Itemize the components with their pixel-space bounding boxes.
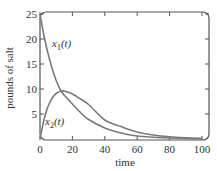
x-tick-label: 40 <box>99 143 111 155</box>
y-tick-label: 25 <box>26 8 38 20</box>
y-tick-label: 5 <box>32 108 38 120</box>
salt-chart: 020406080100510152025 x1(t)x2(t) time po… <box>0 0 217 171</box>
curve-x1t <box>40 14 202 139</box>
y-tick-label: 10 <box>26 83 38 95</box>
curve-label-x2t: x2(t) <box>44 115 65 130</box>
curves <box>40 14 202 139</box>
plot-border <box>40 12 209 140</box>
y-tick-label: 15 <box>26 58 38 70</box>
curve-x2t <box>40 91 202 139</box>
x-axis-label: time <box>115 156 135 168</box>
x-tick-label: 100 <box>194 143 211 155</box>
curve-label-x1t: x1(t) <box>51 37 72 52</box>
y-tick-label: 20 <box>26 33 38 45</box>
plot-frame <box>40 12 209 140</box>
x-tick-label: 60 <box>132 143 144 155</box>
y-axis-label: pounds of salt <box>3 47 15 109</box>
x-tick-label: 80 <box>164 143 176 155</box>
x-tick-label: 0 <box>37 143 43 155</box>
x-tick-label: 20 <box>67 143 79 155</box>
